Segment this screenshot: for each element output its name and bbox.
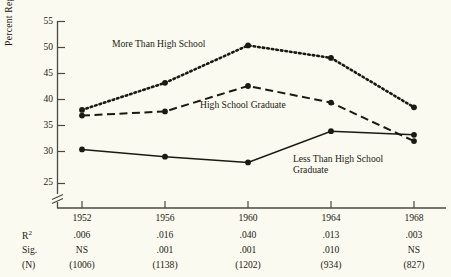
series-annotation-less-than-high-school-graduate: Less Than High SchoolGraduate xyxy=(293,153,383,175)
stats-cell-r2-1: .016 xyxy=(135,229,195,240)
annot-less-line1: Less Than High School xyxy=(293,153,383,164)
stats-cell-n-3: (934) xyxy=(301,259,361,270)
data-point-marker xyxy=(328,100,334,106)
data-point-marker xyxy=(411,104,417,110)
stats-cell-n-2: (1202) xyxy=(218,259,278,270)
stats-cell-n-1: (1138) xyxy=(135,259,195,270)
stats-cell-sig-4: NS xyxy=(384,244,444,255)
stats-cell-sig-1: .001 xyxy=(135,244,195,255)
stats-cell-n-0: (1006) xyxy=(52,259,112,270)
stats-cell-n-4: (827) xyxy=(384,259,444,270)
data-point-marker xyxy=(162,109,168,115)
stats-row-label-n: (N) xyxy=(22,259,35,270)
series-annotation-more-than-high-school: More Than High School xyxy=(112,38,205,49)
data-point-marker xyxy=(79,147,85,153)
data-point-marker xyxy=(162,80,168,86)
data-point-marker xyxy=(245,43,251,49)
data-point-marker xyxy=(245,160,251,166)
data-point-marker xyxy=(162,154,168,160)
data-point-marker xyxy=(411,138,417,144)
data-point-marker xyxy=(411,132,417,138)
series-annotation-high-school-graduate: High School Graduate xyxy=(200,99,286,110)
stats-cell-sig-2: .001 xyxy=(218,244,278,255)
data-point-marker xyxy=(79,113,85,119)
annot-less-line2: Graduate xyxy=(293,164,328,175)
stats-cell-r2-3: .013 xyxy=(301,229,361,240)
stats-cell-r2-0: .006 xyxy=(52,229,112,240)
x-category-label-0: 1952 xyxy=(52,212,112,223)
data-point-marker xyxy=(328,55,334,61)
x-category-label-2: 1960 xyxy=(218,212,278,223)
stats-row-label-significance: Sig. xyxy=(22,244,37,255)
stats-cell-r2-2: .040 xyxy=(218,229,278,240)
stats-cell-r2-4: .003 xyxy=(384,229,444,240)
data-point-marker xyxy=(328,128,334,134)
x-category-label-3: 1964 xyxy=(301,212,361,223)
data-point-marker xyxy=(79,107,85,113)
chart-figure: Percent Regular Attendance 55 50 45 40 3… xyxy=(0,0,451,277)
stats-cell-sig-3: .010 xyxy=(301,244,361,255)
x-category-label-1: 1956 xyxy=(135,212,195,223)
data-point-marker xyxy=(245,83,251,89)
x-category-label-4: 1968 xyxy=(384,212,444,223)
stats-cell-sig-0: NS xyxy=(52,244,112,255)
stats-row-label-r-squared: R2 xyxy=(22,229,32,241)
